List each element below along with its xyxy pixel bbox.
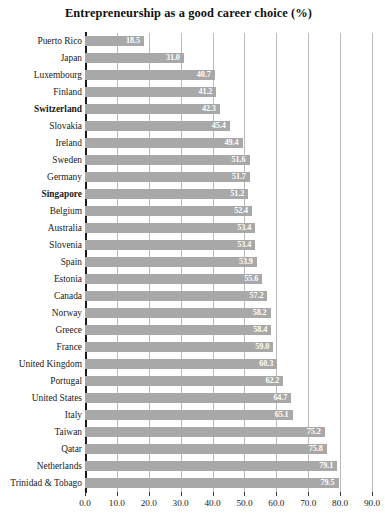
bar-value-label: 51.6 <box>206 155 246 165</box>
category-label: Belgium <box>0 203 82 220</box>
category-label: Estonia <box>0 271 82 288</box>
category-label: Singapore <box>0 186 82 203</box>
bar-row: 62.2 <box>85 373 372 390</box>
category-label: Japan <box>0 50 82 67</box>
bar-row: 42.3 <box>85 101 372 118</box>
bar-row: 57.2 <box>85 288 372 305</box>
x-tick-mark <box>149 492 150 496</box>
x-tick-mark <box>244 492 245 496</box>
bar-row: 51.6 <box>85 152 372 169</box>
bar-value-label: 45.4 <box>186 121 226 131</box>
x-tick-mark <box>181 492 182 496</box>
x-tick-mark <box>372 492 373 496</box>
bar-row: 60.3 <box>85 356 372 373</box>
x-tick-mark <box>308 492 309 496</box>
category-label: Spain <box>0 254 82 271</box>
bar-value-label: 51.7 <box>206 172 246 182</box>
category-label: Germany <box>0 169 82 186</box>
bar-row: 41.2 <box>85 84 372 101</box>
category-label: Qatar <box>0 441 82 458</box>
bar-row: 51.7 <box>85 169 372 186</box>
bar-row: 51.2 <box>85 186 372 203</box>
bar-row: 31.0 <box>85 50 372 67</box>
category-label: Taiwan <box>0 424 82 441</box>
category-label: United States <box>0 390 82 407</box>
category-label: Sweden <box>0 152 82 169</box>
category-label: Finland <box>0 84 82 101</box>
category-label: Trinidad & Tobago <box>0 475 82 492</box>
bar-row: 58.4 <box>85 322 372 339</box>
bar-value-label: 51.2 <box>204 189 244 199</box>
bar-value-label: 75.2 <box>281 427 321 437</box>
category-label: Canada <box>0 288 82 305</box>
bar-value-label: 53.4 <box>211 240 251 250</box>
bar-row: 53.4 <box>85 237 372 254</box>
category-label: Slovenia <box>0 237 82 254</box>
bar-value-label: 57.2 <box>223 291 263 301</box>
bar-row: 53.9 <box>85 254 372 271</box>
category-label: Switzerland <box>0 101 82 118</box>
bar-value-label: 79.5 <box>295 478 335 488</box>
bar-row: 52.4 <box>85 203 372 220</box>
bar-row: 79.1 <box>85 458 372 475</box>
category-label: Slovakia <box>0 118 82 135</box>
bar-value-label: 40.7 <box>171 70 211 80</box>
category-label: United Kingdom <box>0 356 82 373</box>
category-label: Luxembourg <box>0 67 82 84</box>
bar-value-label: 42.3 <box>176 104 216 114</box>
plot-area: 18.531.040.741.242.345.449.451.651.751.2… <box>85 33 372 492</box>
bar-value-label: 53.4 <box>211 223 251 233</box>
bar-value-label: 52.4 <box>208 206 248 216</box>
gridline <box>372 33 373 492</box>
category-label: Greece <box>0 322 82 339</box>
bar-row: 59.0 <box>85 339 372 356</box>
category-label: Australia <box>0 220 82 237</box>
bar-row: 45.4 <box>85 118 372 135</box>
x-tick-mark <box>340 492 341 496</box>
bar-value-label: 31.0 <box>140 53 180 63</box>
bar-value-label: 65.1 <box>249 410 289 420</box>
x-tick-mark <box>276 492 277 496</box>
category-label: France <box>0 339 82 356</box>
bar-value-label: 58.2 <box>227 308 267 318</box>
bar-row: 75.8 <box>85 441 372 458</box>
x-tick-mark <box>117 492 118 496</box>
bar-row: 18.5 <box>85 33 372 50</box>
bar-value-label: 59.0 <box>229 342 269 352</box>
bar-value-label: 55.6 <box>218 274 258 284</box>
category-label: Norway <box>0 305 82 322</box>
bar-value-label: 53.9 <box>213 257 253 267</box>
bar-value-label: 18.5 <box>100 36 140 46</box>
chart-title: Entrepreneurship as a good career choice… <box>0 6 377 21</box>
category-label: Portugal <box>0 373 82 390</box>
bar-value-label: 64.7 <box>247 393 287 403</box>
category-label: Netherlands <box>0 458 82 475</box>
x-tick-mark <box>85 492 86 496</box>
category-label: Italy <box>0 407 82 424</box>
bar-row: 49.4 <box>85 135 372 152</box>
bar-value-label: 58.4 <box>227 325 267 335</box>
bar-value-label: 75.8 <box>283 444 323 454</box>
bar-value-label: 79.1 <box>293 461 333 471</box>
bar-value-label: 41.2 <box>172 87 212 97</box>
bar-value-label: 62.2 <box>239 376 279 386</box>
bar-row: 40.7 <box>85 67 372 84</box>
bar-row: 75.2 <box>85 424 372 441</box>
bar-value-label: 60.3 <box>233 359 273 369</box>
x-tick-label: 90.0 <box>352 498 385 508</box>
bar-value-label: 49.4 <box>199 138 239 148</box>
bar-row: 53.4 <box>85 220 372 237</box>
bar-row: 58.2 <box>85 305 372 322</box>
bar-row: 55.6 <box>85 271 372 288</box>
bar-row: 65.1 <box>85 407 372 424</box>
category-label: Ireland <box>0 135 82 152</box>
category-label: Puerto Rico <box>0 33 82 50</box>
bar-row: 79.5 <box>85 475 372 492</box>
bar-row: 64.7 <box>85 390 372 407</box>
x-tick-mark <box>213 492 214 496</box>
